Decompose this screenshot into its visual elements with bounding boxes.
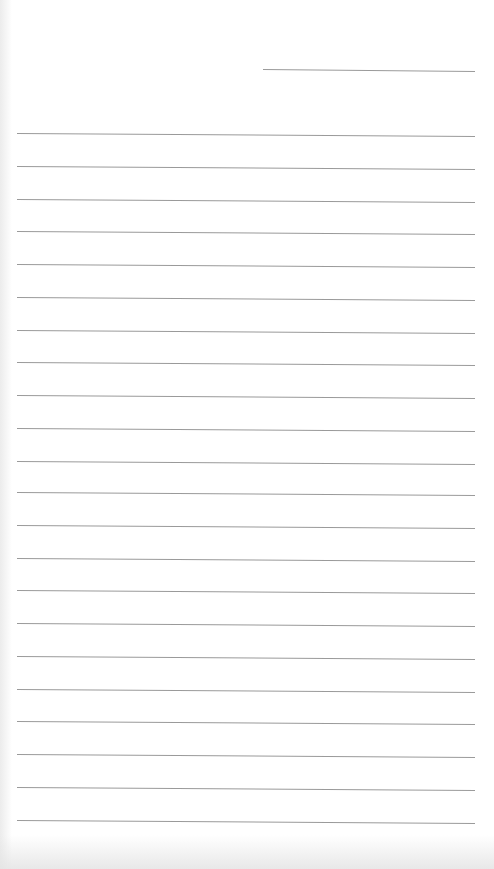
ruled-line [17, 623, 475, 627]
ruled-line [17, 166, 475, 170]
ruled-line [17, 395, 475, 399]
header-line [263, 69, 475, 72]
ruled-line [17, 297, 475, 301]
ruled-line [17, 721, 475, 725]
ruled-line [17, 492, 475, 496]
ruled-line [17, 820, 475, 824]
ruled-line [17, 787, 475, 791]
ruled-line [17, 525, 475, 529]
ruled-line [17, 558, 475, 562]
ruled-line [17, 264, 475, 268]
ruled-line [17, 199, 475, 203]
ruled-line [17, 428, 475, 432]
ruled-line [17, 362, 475, 366]
ruled-line [17, 461, 475, 465]
paper-bottom-shadow [0, 835, 494, 869]
ruled-line [17, 689, 475, 693]
paper-left-shadow [0, 0, 12, 869]
lined-paper [0, 0, 494, 869]
ruled-line [17, 330, 475, 334]
ruled-line [17, 590, 475, 594]
ruled-line [17, 754, 475, 758]
ruled-line [17, 231, 475, 235]
ruled-line [17, 133, 475, 137]
ruled-line [17, 656, 475, 660]
